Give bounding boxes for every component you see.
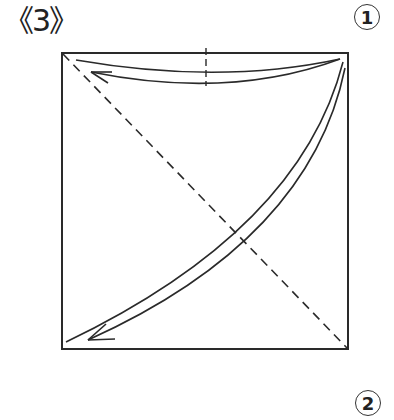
diagonal-fold-line [63,54,347,348]
arrow-diagonal-fold [66,62,345,342]
arrow-top-fold [76,59,340,83]
origami-diagram [0,0,394,420]
